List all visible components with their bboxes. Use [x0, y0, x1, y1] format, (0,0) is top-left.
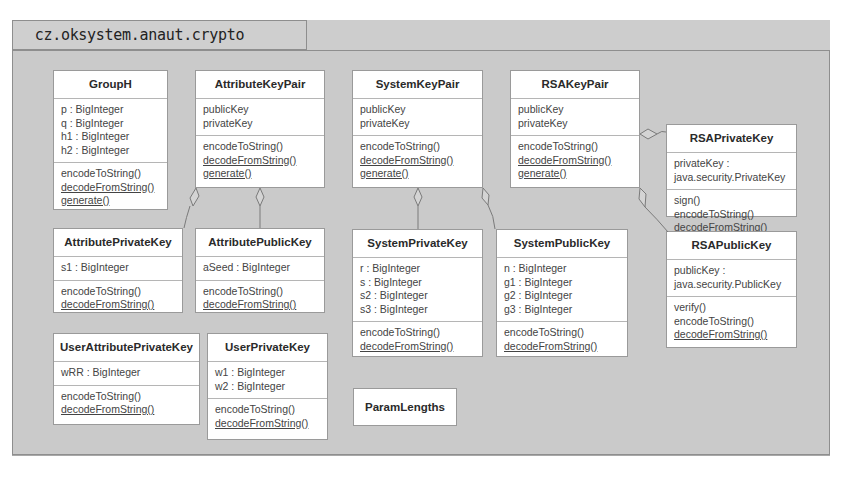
static-method: decodeFromString() [518, 154, 632, 168]
attributes-section: p : BigIntegerq : BigIntegerh1 : BigInte… [54, 99, 167, 162]
class-name: SystemPublicKey [497, 230, 627, 258]
attribute: java.security.PublicKey [674, 278, 789, 292]
attributes-section: publicKeyprivateKey [196, 99, 324, 135]
class-attribute-key-pair[interactable]: AttributeKeyPairpublicKeyprivateKeyencod… [195, 70, 325, 188]
methods-section: encodeToString()decodeFromString()genera… [54, 162, 167, 213]
class-name: RSAKeyPair [511, 71, 639, 99]
attribute: r : BigInteger [360, 262, 475, 276]
methods-section: encodeToString()decodeFromString() [196, 280, 324, 317]
class-name: RSAPrivateKey [667, 125, 796, 153]
class-rsa-public-key[interactable]: RSAPublicKeypublicKey :java.security.Pub… [666, 231, 797, 348]
static-method: decodeFromString() [360, 154, 475, 168]
method: encodeToString() [674, 208, 789, 222]
attribute: q : BigInteger [61, 117, 160, 131]
package-tab: cz.oksystem.anaut.crypto [12, 20, 307, 50]
class-name: SystemKeyPair [353, 71, 482, 99]
class-attribute-public-key[interactable]: AttributePublicKeyaSeed : BigIntegerenco… [195, 228, 325, 313]
method: sign() [674, 194, 789, 208]
method: encodeToString() [504, 326, 620, 340]
static-method: decodeFromString() [360, 340, 475, 354]
attribute: java.security.PrivateKey [674, 171, 789, 185]
methods-section: encodeToString()decodeFromString()genera… [511, 135, 639, 186]
static-method: generate() [203, 167, 317, 181]
package-header-strip [307, 20, 830, 50]
class-groupH[interactable]: GroupHp : BigIntegerq : BigIntegerh1 : B… [53, 70, 168, 210]
class-param-lengths[interactable]: ParamLengths [353, 388, 457, 426]
methods-section: encodeToString()decodeFromString() [54, 280, 182, 317]
attributes-section: r : BigIntegers : BigIntegers2 : BigInte… [353, 258, 482, 321]
attribute: privateKey [360, 117, 475, 131]
method: encodeToString() [203, 285, 317, 299]
attribute: wRR : BigInteger [61, 366, 192, 380]
attributes-section: publicKeyprivateKey [511, 99, 639, 135]
class-name: SystemPrivateKey [353, 230, 482, 258]
static-method: decodeFromString() [203, 154, 317, 168]
attribute: s3 : BigInteger [360, 303, 475, 317]
class-rsa-private-key[interactable]: RSAPrivateKeyprivateKey :java.security.P… [666, 124, 797, 217]
static-method: decodeFromString() [61, 181, 160, 195]
class-system-private-key[interactable]: SystemPrivateKeyr : BigIntegers : BigInt… [352, 229, 483, 357]
method: encodeToString() [61, 285, 175, 299]
attribute: h2 : BigInteger [61, 144, 160, 158]
methods-section: encodeToString()decodeFromString()genera… [196, 135, 324, 186]
attributes-section: w1 : BigIntegerw2 : BigInteger [208, 362, 327, 398]
attribute: g3 : BigInteger [504, 303, 620, 317]
attributes-section: aSeed : BigInteger [196, 257, 324, 280]
attribute: publicKey [360, 103, 475, 117]
static-method: decodeFromString() [203, 298, 317, 312]
class-system-public-key[interactable]: SystemPublicKeyn : BigIntegerg1 : BigInt… [496, 229, 628, 357]
attribute: w1 : BigInteger [215, 366, 320, 380]
attributes-section: n : BigIntegerg1 : BigIntegerg2 : BigInt… [497, 258, 627, 321]
attribute: s2 : BigInteger [360, 289, 475, 303]
attribute: privateKey : [674, 157, 789, 171]
static-method: decodeFromString() [215, 417, 320, 431]
attributes-section: publicKeyprivateKey [353, 99, 482, 135]
methods-section: encodeToString()decodeFromString() [353, 321, 482, 358]
method: encodeToString() [518, 140, 632, 154]
method: encodeToString() [215, 403, 320, 417]
method: encodeToString() [61, 167, 160, 181]
attributes-section: privateKey :java.security.PrivateKey [667, 153, 796, 189]
class-user-private-key[interactable]: UserPrivateKeyw1 : BigIntegerw2 : BigInt… [207, 333, 328, 440]
attribute: h1 : BigInteger [61, 130, 160, 144]
class-name: ParamLengths [354, 389, 456, 425]
attributes-section: publicKey :java.security.PublicKey [667, 260, 796, 296]
static-method: decodeFromString() [674, 328, 789, 342]
method: verify() [674, 301, 789, 315]
static-method: decodeFromString() [504, 340, 620, 354]
method: encodeToString() [360, 140, 475, 154]
attribute: n : BigInteger [504, 262, 620, 276]
static-method: generate() [518, 167, 632, 181]
class-name: RSAPublicKey [667, 232, 796, 260]
method: encodeToString() [360, 326, 475, 340]
class-name: UserAttributePrivateKey [54, 334, 199, 362]
attribute: g1 : BigInteger [504, 276, 620, 290]
method: encodeToString() [203, 140, 317, 154]
class-attribute-private-key[interactable]: AttributePrivateKeys1 : BigIntegerencode… [53, 228, 183, 313]
methods-section: encodeToString()decodeFromString() [208, 398, 327, 435]
attribute: publicKey : [674, 264, 789, 278]
attribute: aSeed : BigInteger [203, 261, 317, 275]
method: encodeToString() [61, 390, 192, 404]
class-user-attribute-private-key[interactable]: UserAttributePrivateKeywRR : BigIntegere… [53, 333, 200, 425]
attribute: s : BigInteger [360, 276, 475, 290]
class-name: AttributeKeyPair [196, 71, 324, 99]
package-name: cz.oksystem.anaut.crypto [13, 21, 306, 49]
attribute: g2 : BigInteger [504, 289, 620, 303]
methods-section: encodeToString()decodeFromString() [497, 321, 627, 358]
method: encodeToString() [674, 315, 789, 329]
class-rsa-key-pair[interactable]: RSAKeyPairpublicKeyprivateKeyencodeToStr… [510, 70, 640, 188]
class-name: AttributePublicKey [196, 229, 324, 257]
attributes-section: s1 : BigInteger [54, 257, 182, 280]
methods-section: encodeToString()decodeFromString()genera… [353, 135, 482, 186]
attribute: privateKey [518, 117, 632, 131]
methods-section: encodeToString()decodeFromString() [54, 385, 199, 422]
class-name: UserPrivateKey [208, 334, 327, 362]
attribute: s1 : BigInteger [61, 261, 175, 275]
class-system-key-pair[interactable]: SystemKeyPairpublicKeyprivateKeyencodeTo… [352, 70, 483, 188]
class-name: AttributePrivateKey [54, 229, 182, 257]
attribute: p : BigInteger [61, 103, 160, 117]
attribute: publicKey [518, 103, 632, 117]
static-method: decodeFromString() [61, 403, 192, 417]
class-name: GroupH [54, 71, 167, 99]
